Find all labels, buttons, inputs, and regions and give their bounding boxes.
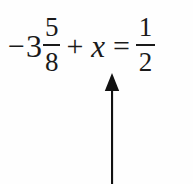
mixed-number-3-5-8: 3 5 8 xyxy=(26,14,62,79)
fraction-bar xyxy=(136,44,155,47)
whole-number: 3 xyxy=(26,30,42,62)
fraction-denominator: 2 xyxy=(137,48,155,77)
annotation-arrow-up-icon xyxy=(104,72,120,184)
fraction-numerator: 1 xyxy=(137,13,155,42)
fraction-denominator: 8 xyxy=(43,48,61,77)
fraction-numerator: 5 xyxy=(43,13,61,42)
plus-sign: + xyxy=(61,31,88,61)
equation-expression: − 3 5 8 + x = 1 2 xyxy=(0,0,193,92)
equals-sign: = xyxy=(108,31,135,61)
fraction-bar xyxy=(43,44,60,47)
minus-sign: − xyxy=(8,31,26,61)
variable-x: x xyxy=(88,31,108,62)
fraction-1-2: 1 2 xyxy=(136,13,155,78)
fraction-5-8: 5 8 xyxy=(43,13,61,78)
equation-image: − 3 5 8 + x = 1 2 xyxy=(0,0,193,184)
